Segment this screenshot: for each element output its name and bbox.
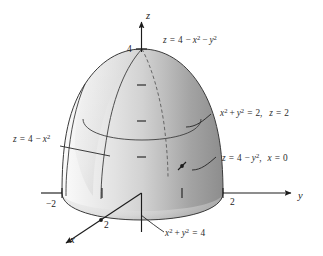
annotation-parabola-trace-y0: z=4−x2 [12,133,50,144]
x-tick-label-2: 2 [104,220,109,230]
x-axis-label: x [69,234,75,245]
annotation-base-circle: x2+y2=4 [164,227,205,238]
paraboloid-figure: z y x 4 −2 2 2 z=4−x2−y2 x2+y2=2,z=2 z=4… [0,0,323,256]
annotation-paraboloid-equation: z=4−x2−y2 [162,34,217,45]
figure-canvas: z y x 4 −2 2 2 z=4−x2−y2 x2+y2=2,z=2 z=4… [0,0,323,256]
annotation-parabola-trace-x0: z=4−y2,x=0 [221,152,288,163]
annotation-circle-trace-z2: x2+y2=2,z=2 [219,107,289,118]
z-tick-label-4: 4 [127,44,132,54]
y-axis-label: y [297,190,303,201]
y-tick-label-neg2: −2 [46,199,56,209]
x-tick-2 [99,218,103,222]
z-axis-label: z [145,10,150,21]
y-tick-label-pos2: 2 [230,197,235,207]
paraboloid-solid [62,49,223,220]
